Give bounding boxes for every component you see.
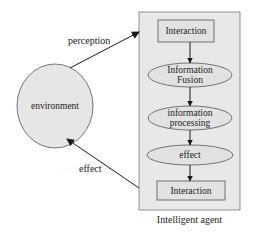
information-processing-line1: information — [168, 108, 213, 118]
effect-node-text: effect — [179, 150, 200, 160]
effect-arrow — [67, 139, 139, 188]
effect-edge-label: effect — [79, 163, 102, 174]
interaction-top-text: Interaction — [165, 26, 206, 36]
information-processing-label: information processing — [148, 106, 232, 130]
intelligent-agent-caption-text: Intelligent agent — [157, 215, 222, 225]
effect-node-label: effect — [147, 145, 233, 165]
perception-label: perception — [68, 35, 110, 46]
environment-text: environment — [31, 101, 79, 111]
environment-label: environment — [17, 100, 93, 112]
information-fusion-label: Information Fusion — [148, 63, 232, 87]
interaction-top-label: Interaction — [158, 20, 214, 42]
intelligent-agent-caption: Intelligent agent — [139, 214, 240, 226]
information-processing-line2: processing — [170, 118, 211, 128]
information-fusion-line2: Fusion — [177, 75, 203, 85]
information-fusion-line1: Information — [167, 65, 212, 75]
agent-environment-diagram: environment perception effect Interactio… — [0, 0, 255, 233]
interaction-bottom-text: Interaction — [170, 186, 211, 196]
interaction-bottom-label: Interaction — [157, 181, 225, 200]
